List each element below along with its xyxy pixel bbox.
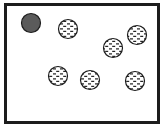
figure-canvas <box>0 0 168 134</box>
hatched-particle-group <box>49 20 147 91</box>
hatched-particle-circle <box>59 20 78 39</box>
hatched-particle-circle <box>49 67 68 86</box>
solid-particle-group <box>22 14 41 33</box>
hatched-particle-circle <box>128 26 147 45</box>
hatched-particle-circle <box>126 72 145 91</box>
solid-particle-circle <box>22 14 41 33</box>
hatched-particle-circle <box>81 71 100 90</box>
particle-layer <box>0 0 168 134</box>
hatched-particle-circle <box>104 39 123 58</box>
